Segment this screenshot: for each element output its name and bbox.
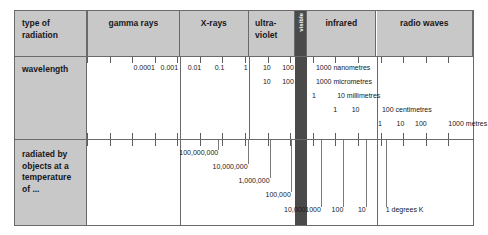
tick-mark: [87, 133, 88, 139]
tick-mark: [177, 133, 178, 139]
tick-mark: [245, 57, 246, 63]
temperature-leader-line: [321, 140, 322, 207]
temperature-label: 1000: [305, 206, 321, 214]
scale-label: 0.1: [215, 64, 225, 72]
tick-mark: [426, 57, 427, 63]
tick-mark: [245, 140, 246, 146]
temperature-scale-area: 100,000,00010,000,0001,000,000100,00010,…: [87, 140, 473, 225]
band-radio-waves: radio waves: [377, 11, 474, 56]
band-ultraviolet: ultra-violet: [249, 11, 295, 56]
scale-label: 100 centimetres: [382, 106, 432, 114]
temperature-leader-line: [343, 140, 344, 207]
tick-mark: [245, 133, 246, 139]
temperature-label: 1 degrees K: [386, 206, 424, 214]
tick-mark: [358, 133, 359, 139]
scale-label: 0.01: [188, 64, 202, 72]
tick-mark: [87, 140, 88, 146]
band-separator: [377, 140, 378, 225]
row-temperature: radiated byobjects at atemperatureof ...…: [15, 140, 473, 225]
electromagnetic-spectrum-table: type ofradiation gamma raysX-raysultra-v…: [14, 10, 474, 226]
visible-light-stripe: [295, 57, 307, 139]
tick-mark: [155, 133, 156, 139]
tick-mark: [313, 133, 314, 139]
row-label-text: radiated byobjects at atemperatureof ...: [22, 149, 71, 194]
tick-mark: [426, 140, 427, 146]
band-visible: visible: [295, 11, 307, 56]
tick-mark: [381, 133, 382, 139]
band-label: gamma rays: [109, 18, 159, 30]
tick-mark: [110, 140, 111, 146]
tick-mark: [335, 140, 336, 146]
tick-mark: [200, 57, 201, 63]
band-separator: [180, 57, 181, 139]
row-label-type-of-radiation: type ofradiation: [15, 11, 87, 56]
row-label-temperature: radiated byobjects at atemperatureof ...: [15, 140, 87, 225]
band-gamma-rays: gamma rays: [87, 11, 180, 56]
tick-mark: [403, 57, 404, 63]
scale-label: 1: [244, 64, 248, 72]
tick-mark: [110, 57, 111, 63]
temperature-label: 10,000,000: [213, 163, 248, 171]
temperature-label: 10: [358, 206, 366, 214]
band-infrared: infrared: [307, 11, 376, 56]
tick-mark: [132, 133, 133, 139]
row-type-of-radiation: type ofradiation gamma raysX-raysultra-v…: [15, 11, 473, 57]
tick-mark: [448, 140, 449, 146]
tick-mark: [313, 140, 314, 146]
temperature-leader-line: [270, 140, 271, 178]
band-label: ultra-violet: [249, 18, 294, 41]
tick-mark: [358, 57, 359, 63]
tick-mark: [426, 133, 427, 139]
tick-mark: [268, 140, 269, 146]
tick-mark: [155, 57, 156, 63]
temperature-leader-line: [366, 140, 367, 207]
temperature-label: 100,000,000: [179, 149, 218, 157]
tick-mark: [335, 133, 336, 139]
tick-mark: [290, 133, 291, 139]
scale-label: 100: [282, 64, 294, 72]
tick-mark: [110, 133, 111, 139]
scale-label: 1: [378, 120, 382, 128]
scale-label: 10: [263, 64, 271, 72]
tick-mark: [381, 57, 382, 63]
temperature-label: 10,000: [284, 206, 305, 214]
row-label-text: type ofradiation: [22, 18, 58, 40]
band-label: visible: [298, 13, 304, 32]
tick-mark: [132, 140, 133, 146]
band-label: X-rays: [201, 18, 227, 30]
row-wavelength: wavelength 0.00010.0010.010.11101001000 …: [15, 57, 473, 140]
tick-mark: [268, 133, 269, 139]
scale-label: 100: [282, 78, 294, 86]
row-label-wavelength: wavelength: [15, 57, 87, 139]
tick-mark: [222, 133, 223, 139]
tick-mark: [177, 140, 178, 146]
tick-mark: [132, 57, 133, 63]
row-label-text: wavelength: [22, 64, 68, 74]
wavelength-scale-area: 0.00010.0010.010.11101001000 nanometres1…: [87, 57, 473, 139]
tick-mark: [290, 140, 291, 146]
temperature-label: 100,000: [265, 191, 290, 199]
tick-mark: [177, 57, 178, 63]
temperature-leader-line: [386, 140, 387, 207]
temperature-label: 100: [332, 206, 344, 214]
scale-label: 10: [396, 120, 404, 128]
scale-label: 1000 nanometres: [316, 64, 370, 72]
tick-mark: [222, 140, 223, 146]
scale-label: 0.0001: [134, 64, 155, 72]
temperature-leader-line: [291, 140, 292, 192]
band-separator: [249, 57, 250, 139]
tick-mark: [87, 57, 88, 63]
tick-mark: [200, 133, 201, 139]
scale-label: 0.001: [161, 64, 179, 72]
tick-mark: [268, 57, 269, 63]
tick-mark: [335, 57, 336, 63]
tick-mark: [358, 140, 359, 146]
scale-label: 10: [263, 78, 271, 86]
temperature-label: 1,000,000: [238, 177, 269, 185]
scale-label: 10 millimetres: [337, 92, 380, 100]
scale-label: 1000 metres: [448, 120, 487, 128]
tick-mark: [313, 57, 314, 63]
band-label: radio waves: [400, 18, 449, 30]
tick-mark: [290, 57, 291, 63]
tick-mark: [448, 133, 449, 139]
